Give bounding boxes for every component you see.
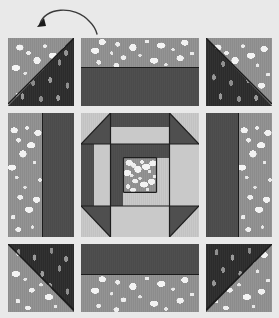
top-center-unit[interactable] (81, 38, 199, 106)
speckled-gray-band (8, 113, 42, 237)
solid-dark-band (81, 244, 199, 274)
solid-dark-band (81, 67, 199, 106)
seam-diagonal (206, 244, 272, 310)
seam-vertical (238, 113, 239, 237)
center-seams-layer (81, 113, 199, 237)
middle-left-unit[interactable] (8, 113, 74, 237)
quilt-block-grid (8, 38, 272, 312)
rotation-arrow-arc (40, 10, 97, 34)
bottom-left-unit[interactable] (8, 244, 74, 312)
rotation-arrow (28, 2, 108, 36)
bottom-center-unit[interactable] (81, 244, 199, 312)
bottom-right-unit[interactable] (206, 244, 272, 312)
center-unit[interactable] (81, 113, 199, 237)
speckled-gray-band (81, 274, 199, 312)
top-left-unit[interactable] (8, 38, 74, 106)
seam-diagonal (8, 38, 74, 104)
seam-vertical (42, 113, 43, 237)
speckled-gray-band (81, 38, 199, 67)
solid-dark-band (42, 113, 74, 237)
solid-dark-band (206, 113, 238, 237)
seam-horizontal (81, 67, 199, 68)
middle-right-unit[interactable] (206, 113, 272, 237)
seam-diagonal (8, 244, 74, 310)
seam-horizontal (81, 274, 199, 275)
seam-diagonal (206, 38, 272, 104)
top-right-unit[interactable] (206, 38, 272, 106)
speckled-gray-band (238, 113, 272, 237)
